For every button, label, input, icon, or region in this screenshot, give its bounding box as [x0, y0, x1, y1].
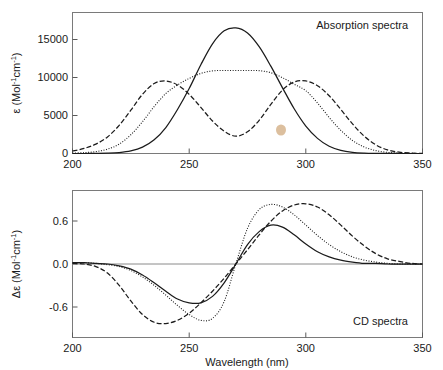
cd-xtick-label-300: 300: [297, 342, 315, 354]
absorption-ylabel-p1: ε (Mol: [10, 84, 22, 113]
absorption-annotation: Absorption spectra: [316, 19, 409, 31]
absorption-xtick-label-200: 200: [63, 158, 81, 170]
curve-cd-dotted: [73, 204, 423, 321]
cd-ylabel: Δε (Mol-1cm-1): [9, 230, 22, 298]
cd-annotation: CD spectra: [353, 315, 409, 327]
figure-canvas: 0 5000 10000 15000 200 250 300 350 ε (Mo…: [0, 0, 443, 370]
absorption-ylabel-sup1: -1: [9, 77, 18, 84]
curve-absorption-dotted: [73, 70, 423, 153]
absorption-y-ticks: [73, 40, 78, 154]
cd-xtick-label-200: 200: [63, 342, 81, 354]
cd-ytick-label-pos: -0.6: [49, 301, 68, 313]
cd-panel: 0.6 0.0 -0.6 200 250 300 350 Δε (Mol-1cm…: [9, 191, 432, 369]
cd-ylabel-p3: ): [10, 230, 22, 234]
cd-ylabel-sup2: -1: [9, 233, 18, 240]
paper-smudge-artifact: [276, 125, 286, 136]
spectra-figure: 0 5000 10000 15000 200 250 300 350 ε (Mo…: [0, 0, 443, 370]
svg-text:ε (Mol-1cm-1): ε (Mol-1cm-1): [9, 52, 22, 113]
absorption-ytick-label-5000: 5000: [44, 109, 68, 121]
cd-xtick-label-250: 250: [180, 342, 198, 354]
cd-ylabel-p1: ε (Mol: [10, 261, 22, 290]
absorption-ylabel-p3: ): [10, 52, 22, 56]
absorption-ylabel-sup2: -1: [9, 56, 18, 63]
cd-ylabel-sup1: -1: [9, 255, 18, 262]
absorption-curves: [73, 28, 423, 154]
absorption-ytick-label-10000: 10000: [37, 71, 68, 83]
cd-ytick-label-neg: 0.6: [53, 215, 68, 227]
absorption-panel: 0 5000 10000 15000 200 250 300 350 ε (Mo…: [9, 13, 432, 171]
svg-text:Δε (Mol-1cm-1): Δε (Mol-1cm-1): [9, 230, 22, 298]
cd-ytick-label-zero: 0.0: [53, 258, 68, 270]
cd-xtick-label-350: 350: [413, 342, 431, 354]
absorption-ylabel-p2: cm: [10, 63, 22, 78]
absorption-xtick-label-350: 350: [413, 158, 431, 170]
absorption-xtick-label-250: 250: [180, 158, 198, 170]
absorption-ylabel: ε (Mol-1cm-1): [9, 52, 22, 113]
cd-ylabel-p2: cm: [10, 240, 22, 255]
cd-x-ticks: [73, 333, 423, 338]
curve-absorption-solid: [73, 28, 423, 154]
curve-absorption-dashed: [73, 81, 423, 154]
cd-xlabel: Wavelength (nm): [205, 356, 288, 368]
absorption-ytick-label-15000: 15000: [37, 33, 68, 45]
absorption-xtick-label-300: 300: [297, 158, 315, 170]
